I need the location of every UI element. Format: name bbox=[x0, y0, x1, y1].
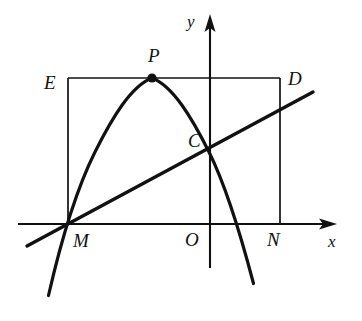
y-axis bbox=[205, 14, 216, 268]
label-D: D bbox=[288, 69, 302, 88]
diagram-canvas bbox=[0, 0, 362, 321]
point-P-dot bbox=[147, 73, 156, 82]
label-y-axis: y bbox=[187, 13, 195, 30]
label-N: N bbox=[267, 230, 280, 249]
label-E: E bbox=[44, 73, 56, 92]
label-C: C bbox=[188, 131, 201, 150]
parabola-path bbox=[49, 78, 254, 296]
label-x-axis: x bbox=[328, 233, 336, 250]
label-P: P bbox=[148, 46, 160, 65]
label-O: O bbox=[185, 230, 199, 249]
parabola-curve bbox=[49, 78, 254, 296]
label-M: M bbox=[73, 231, 89, 250]
geometry-figure: E D P C M O N x y bbox=[0, 0, 362, 321]
secant-line-path bbox=[27, 92, 313, 246]
secant-line bbox=[27, 92, 313, 246]
rectangle-EDNM bbox=[68, 78, 280, 224]
